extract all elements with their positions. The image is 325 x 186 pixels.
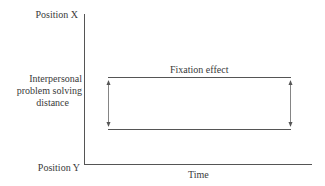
band-label: Fixation effect <box>170 64 228 75</box>
y-axis-title-line-3: distance <box>36 97 69 108</box>
y-axis-title-line-1: Interpersonal <box>29 73 82 84</box>
y-axis-top-label: Position X <box>35 9 78 20</box>
x-axis-label: Time <box>188 169 209 180</box>
y-axis-title-line-2: problem solving <box>17 85 82 96</box>
right-double-arrow-icon <box>289 80 293 127</box>
left-double-arrow-icon <box>107 80 111 127</box>
y-axis-bottom-label: Position Y <box>38 162 80 173</box>
